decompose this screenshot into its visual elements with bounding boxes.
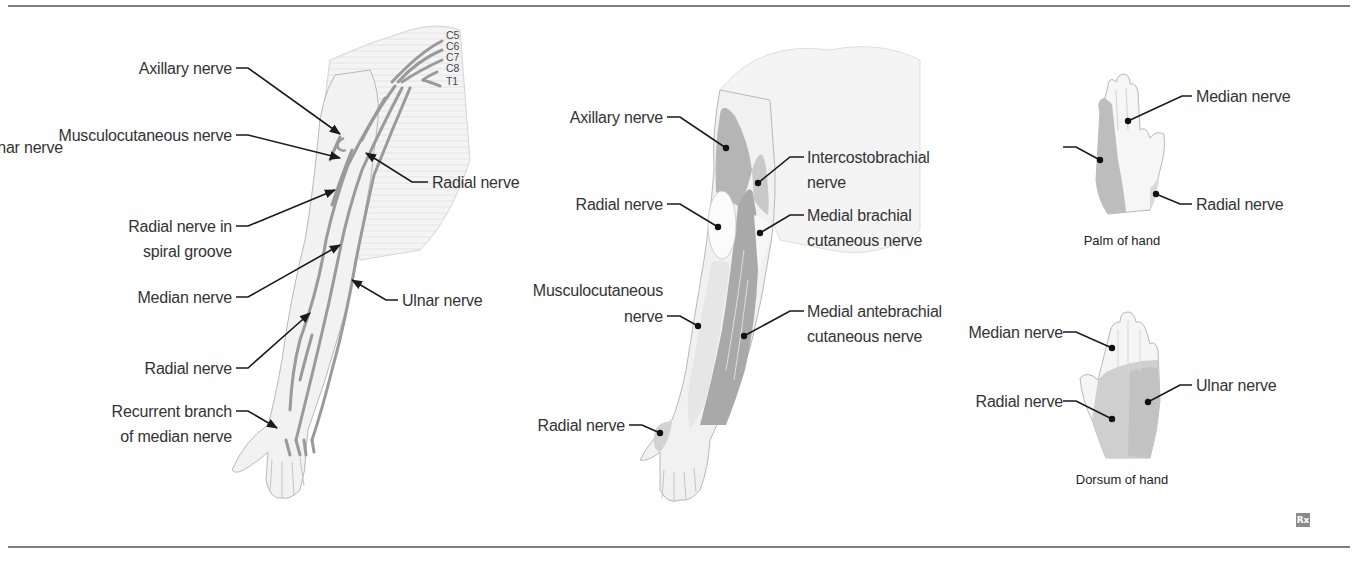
rx-icon: Rx	[1296, 513, 1310, 527]
dorsum-illustration	[1080, 312, 1160, 458]
label-medial-antebrachial-line2: cutaneous nerve	[807, 324, 922, 349]
root-label-t1: T1	[446, 76, 458, 87]
root-label-c8: C8	[446, 63, 459, 74]
label-intercostobrachial-line2: nerve	[807, 170, 846, 195]
middle-arm-illustration	[640, 47, 920, 502]
nerve-figure: C5 C6 C7 C8 T1 Axillary nerve Musculocut…	[0, 0, 1362, 562]
label-mid-radial-nerve: Radial nerve	[576, 192, 663, 217]
label-medial-antebrachial-line1: Medial antebrachial	[807, 299, 942, 324]
label-intercostobrachial-line1: Intercostobrachial	[807, 145, 930, 170]
label-medial-brachial-line1: Medial brachial	[807, 203, 912, 228]
label-dorsum-radial-nerve: Radial nerve	[976, 389, 1063, 414]
label-median-nerve: Median nerve	[137, 285, 232, 310]
label-radial-nerve-forearm: Radial nerve	[145, 356, 232, 381]
label-recurrent-branch-line2: of median nerve	[120, 424, 232, 449]
label-radial-nerve-upper: Radial nerve	[432, 170, 519, 195]
label-ulnar-nerve: Ulnar nerve	[402, 288, 483, 313]
label-dorsum-median-nerve: Median nerve	[968, 320, 1063, 345]
label-dorsum-ulnar-nerve: Ulnar nerve	[1196, 373, 1277, 398]
label-mid-musculocutaneous-line1: Musculocutaneous	[533, 278, 663, 303]
label-medial-brachial-line2: cutaneous nerve	[807, 228, 922, 253]
label-musculocutaneous-nerve: Musculocutaneous nerve	[59, 123, 232, 148]
caption-palm-of-hand: Palm of hand	[1072, 233, 1172, 248]
left-arm-illustration	[232, 26, 470, 498]
label-mid-musculocutaneous-line2: nerve	[624, 304, 663, 329]
caption-dorsum-of-hand: Dorsum of hand	[1062, 472, 1182, 487]
label-radial-nerve-spiral-groove-line1: Radial nerve in	[128, 214, 232, 239]
label-mid-radial-nerve-wrist: Radial nerve	[538, 413, 625, 438]
label-palm-ulnar-nerve: Ulnar nerve	[0, 135, 63, 160]
label-axillary-nerve: Axillary nerve	[139, 56, 232, 81]
label-palm-median-nerve: Median nerve	[1196, 84, 1291, 109]
label-mid-axillary-nerve: Axillary nerve	[570, 105, 663, 130]
label-recurrent-branch-line1: Recurrent branch	[112, 399, 232, 424]
label-radial-nerve-spiral-groove-line2: spiral groove	[143, 239, 232, 264]
label-palm-radial-nerve: Radial nerve	[1196, 192, 1283, 217]
